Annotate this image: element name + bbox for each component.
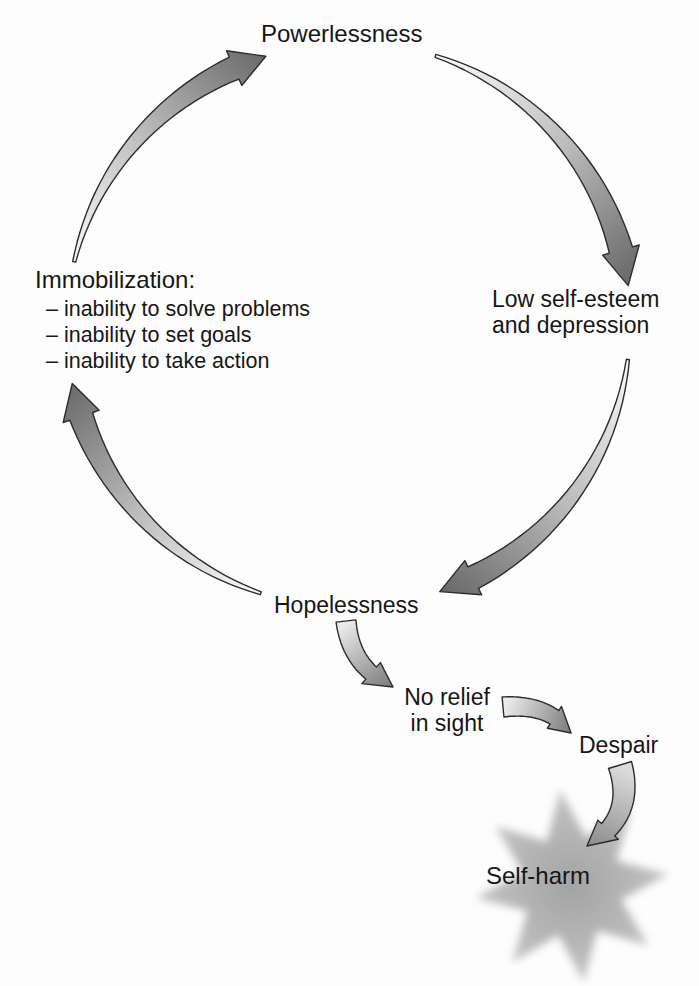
immobilization-bullet-3: – inability to take action	[35, 349, 310, 373]
arrow-powerlessness-to-low-self-esteem	[435, 54, 639, 285]
cycle-diagram: Powerlessness Low self-esteem and depres…	[0, 0, 699, 986]
diagram-artwork	[0, 0, 699, 986]
arrow-hopelessness-to-immobilization	[63, 384, 261, 595]
node-low-self-esteem-line2: and depression	[492, 313, 659, 339]
node-no-relief-line1: No relief	[394, 685, 500, 711]
arrow-hopelessness-to-no-relief	[336, 620, 393, 687]
immobilization-bullet-1: – inability to solve problems	[35, 297, 310, 321]
node-low-self-esteem: Low self-esteem and depression	[492, 287, 659, 339]
node-no-relief: No relief in sight	[394, 685, 500, 737]
arrow-immobilization-to-powerlessness	[73, 51, 266, 262]
node-hopelessness: Hopelessness	[274, 593, 418, 619]
node-immobilization: Immobilization: – inability to solve pro…	[35, 267, 310, 373]
node-powerlessness: Powerlessness	[261, 21, 422, 48]
arrow-despair-to-self-harm	[587, 762, 635, 847]
immobilization-bullet-2: – inability to set goals	[35, 323, 310, 347]
node-despair: Despair	[579, 733, 658, 759]
node-low-self-esteem-line1: Low self-esteem	[492, 287, 659, 313]
arrow-no-relief-to-despair	[502, 697, 571, 733]
node-self-harm: Self-harm	[486, 863, 590, 890]
immobilization-title: Immobilization:	[35, 267, 310, 294]
arrow-low-self-esteem-to-hopelessness	[440, 359, 630, 595]
node-no-relief-line2: in sight	[394, 711, 500, 737]
